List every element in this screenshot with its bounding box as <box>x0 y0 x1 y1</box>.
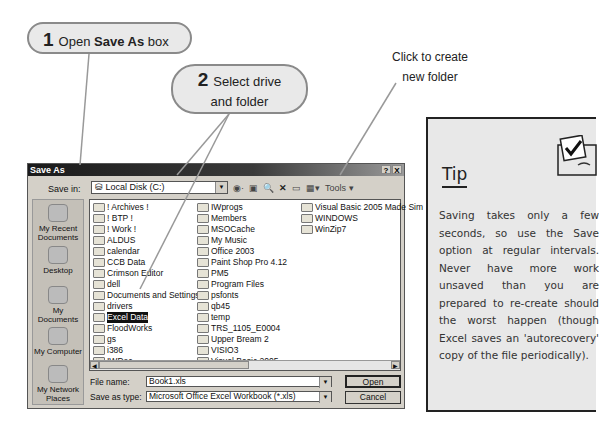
folder-item[interactable]: ALDUS <box>93 235 200 246</box>
callout-text: box <box>144 34 169 49</box>
folder-icon <box>197 247 209 256</box>
places-bar: My RecentDocuments Desktop My Documents … <box>32 199 84 405</box>
file-name-input[interactable]: Book1.xls▼ <box>146 376 332 387</box>
file-list[interactable]: ! Archives !! BTP !! Work !ALDUScalendar… <box>89 199 401 371</box>
scrollbar-thumb[interactable] <box>99 361 249 369</box>
place-network[interactable]: My NetworkPlaces <box>33 365 83 403</box>
folder-name: psfonts <box>211 290 238 301</box>
help-button[interactable]: ? <box>381 165 391 174</box>
place-my-documents[interactable]: My Documents <box>33 286 83 324</box>
callout-new-folder-note: Click to create new folder <box>370 47 490 87</box>
folder-item[interactable]: IWprogs <box>197 202 287 213</box>
back-icon[interactable]: ◉· <box>233 183 244 193</box>
folder-item[interactable]: psfonts <box>197 290 287 301</box>
folder-name: WINDOWS <box>315 213 358 224</box>
folder-name: Paint Shop Pro 4.12 <box>211 257 287 268</box>
tools-menu[interactable]: Tools ▾ <box>325 183 354 193</box>
folder-name: PM5 <box>211 268 228 279</box>
folder-name: Crimson Editor <box>107 268 163 279</box>
folder-item[interactable]: TRS_1105_E0004 <box>197 323 287 334</box>
open-button[interactable]: Open <box>345 375 401 388</box>
folder-item[interactable]: VISIO3 <box>197 345 287 356</box>
folder-icon <box>197 280 209 289</box>
place-my-computer[interactable]: My Computer <box>33 327 83 356</box>
folder-item[interactable]: ! BTP ! <box>93 213 200 224</box>
delete-icon[interactable]: ✕ <box>279 183 287 193</box>
folder-item[interactable]: Visual Basic 2005 Made Sim <box>301 202 423 213</box>
folder-item[interactable]: Excel Data <box>93 312 200 323</box>
place-desktop[interactable]: Desktop <box>33 246 83 275</box>
folder-name: calendar <box>107 246 140 257</box>
network-places-icon <box>48 365 68 383</box>
folder-icon <box>93 346 105 355</box>
folder-name: ! BTP ! <box>107 213 133 224</box>
folder-item[interactable]: Crimson Editor <box>93 268 200 279</box>
folder-item[interactable]: WinZip7 <box>301 224 423 235</box>
folder-item[interactable]: MSOCache <box>197 224 287 235</box>
dialog-titlebar[interactable]: Save As ? X <box>28 164 404 176</box>
note-text: new folder <box>370 67 490 87</box>
folder-icon <box>93 335 105 344</box>
folder-item[interactable]: dell <box>93 279 200 290</box>
drive-icon: ⛁ <box>95 182 106 192</box>
folder-name: IWprogs <box>211 202 243 213</box>
folder-name: Office 2003 <box>211 246 254 257</box>
folder-icon <box>301 214 313 223</box>
folder-name: FloodWorks <box>107 323 152 334</box>
save-type-select[interactable]: Microsoft Office Excel Workbook (*.xls)▼ <box>146 391 332 402</box>
folder-icon <box>301 203 313 212</box>
place-recent-documents[interactable]: My RecentDocuments <box>33 204 83 242</box>
new-folder-icon[interactable]: ▭ <box>292 183 301 193</box>
folder-item[interactable]: drivers <box>93 301 200 312</box>
note-text: Click to create <box>370 47 490 67</box>
folder-icon <box>93 214 105 223</box>
folder-icon <box>93 280 105 289</box>
folder-icon <box>197 346 209 355</box>
folder-item[interactable]: Paint Shop Pro 4.12 <box>197 257 287 268</box>
folder-item[interactable]: Upper Bream 2 <box>197 334 287 345</box>
folder-item[interactable]: ! Work ! <box>93 224 200 235</box>
scroll-left-icon[interactable]: ◀ <box>90 361 99 369</box>
folder-item[interactable]: qb45 <box>197 301 287 312</box>
folder-item[interactable]: Members <box>197 213 287 224</box>
folder-name: My Music <box>211 235 247 246</box>
callout-text: and folder <box>173 92 306 112</box>
cancel-button[interactable]: Cancel <box>345 391 401 404</box>
search-web-icon[interactable]: 🔍 <box>263 183 274 193</box>
close-button[interactable]: X <box>392 165 402 174</box>
dialog-toolbar: ◉· ▣ 🔍 ✕ ▭ ▦▾ Tools ▾ <box>233 181 354 194</box>
folder-name: Visual Basic 2005 Made Sim <box>315 202 423 213</box>
folder-item[interactable]: calendar <box>93 246 200 257</box>
folder-item[interactable]: gs <box>93 334 200 345</box>
save-in-dropdown[interactable]: ⛁ Local Disk (C:) ▼ <box>91 181 228 194</box>
folder-item[interactable]: My Music <box>197 235 287 246</box>
folder-item[interactable]: ! Archives ! <box>93 202 200 213</box>
scroll-right-icon[interactable]: ▶ <box>391 361 400 369</box>
folder-icon <box>93 324 105 333</box>
my-computer-icon <box>48 327 68 345</box>
folder-icon <box>93 291 105 300</box>
folder-item[interactable]: Program Files <box>197 279 287 290</box>
folder-item[interactable]: temp <box>197 312 287 323</box>
folder-icon <box>197 335 209 344</box>
folder-item[interactable]: i386 <box>93 345 200 356</box>
folder-item[interactable]: CCB Data <box>93 257 200 268</box>
folder-item[interactable]: FloodWorks <box>93 323 200 334</box>
chevron-down-icon[interactable]: ▼ <box>215 182 227 193</box>
folder-item[interactable]: WINDOWS <box>301 213 423 224</box>
folder-icon <box>301 225 313 234</box>
folder-name: ! Archives ! <box>107 202 149 213</box>
folder-name: Program Files <box>211 279 264 290</box>
file-column: IWprogsMembersMSOCacheMy MusicOffice 200… <box>197 202 287 367</box>
horizontal-scrollbar[interactable]: ◀ ▶ <box>90 360 400 370</box>
chevron-down-icon[interactable]: ▼ <box>319 392 331 403</box>
chevron-down-icon[interactable]: ▼ <box>319 377 331 388</box>
folder-item[interactable]: Documents and Settings <box>93 290 200 301</box>
folder-icon <box>197 236 209 245</box>
up-folder-icon[interactable]: ▣ <box>249 183 258 193</box>
folder-item[interactable]: Office 2003 <box>197 246 287 257</box>
tip-text: Saving takes only a few seconds, so use … <box>439 207 599 365</box>
views-icon[interactable]: ▦▾ <box>306 183 320 193</box>
folder-item[interactable]: PM5 <box>197 268 287 279</box>
checkmark-clipboard-icon <box>554 135 598 179</box>
